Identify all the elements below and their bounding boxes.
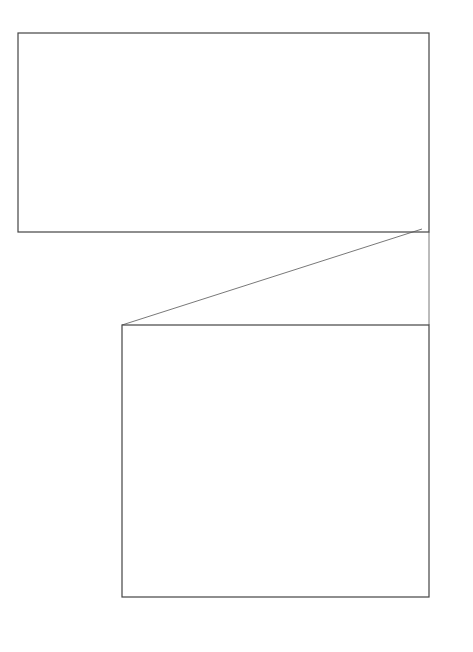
zoom-connector-line — [122, 229, 422, 325]
charts-canvas — [0, 0, 473, 652]
bottom-chart-frame — [122, 325, 429, 597]
top-chart-frame — [18, 33, 429, 232]
top-chart — [18, 33, 429, 232]
